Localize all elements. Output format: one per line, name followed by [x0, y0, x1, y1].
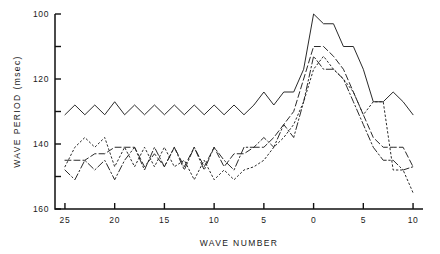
- x-tick-label: 10: [209, 215, 220, 225]
- y-axis-title: WAVE PERIOD (msec): [12, 55, 22, 168]
- y-tick-label: 120: [33, 74, 49, 84]
- x-tick-label: 15: [159, 215, 170, 225]
- chart-canvas: 1001201401602520151050510WAVE NUMBERWAVE…: [0, 0, 440, 254]
- wave-period-chart: 1001201401602520151050510WAVE NUMBERWAVE…: [0, 0, 440, 254]
- y-tick-label: 140: [33, 139, 49, 149]
- x-tick-label: 10: [408, 215, 419, 225]
- x-tick-label: 5: [361, 215, 366, 225]
- y-tick-label: 100: [33, 9, 49, 19]
- x-tick-label: 20: [109, 215, 120, 225]
- series-line-solid: [65, 14, 413, 115]
- x-tick-label: 5: [261, 215, 266, 225]
- x-axis-title: WAVE NUMBER: [200, 238, 279, 248]
- x-tick-label: 25: [60, 215, 71, 225]
- y-tick-label: 160: [33, 204, 49, 214]
- axis-spines: [55, 14, 423, 209]
- x-tick-label: 0: [311, 215, 316, 225]
- series-line-dotted: [65, 56, 413, 193]
